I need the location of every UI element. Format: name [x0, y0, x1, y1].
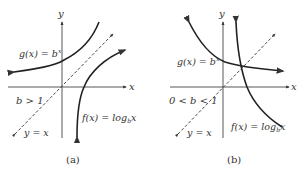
y-axis-label: y — [218, 8, 225, 19]
diagram-root: x y g(x) = bx b > 1 f(x) = logbx y = x (… — [0, 0, 300, 174]
condition-label: b > 1 — [16, 95, 44, 106]
log-curve — [77, 50, 125, 137]
log-label: f(x) = logbx — [230, 121, 286, 133]
condition-label: 0 < b < 1 — [169, 95, 218, 106]
exp-label: g(x) = bx — [177, 55, 220, 67]
y-axis-label: y — [57, 8, 64, 19]
x-axis-label: x — [129, 81, 135, 92]
identity-line — [178, 34, 275, 134]
identity-label: y = x — [186, 127, 212, 138]
identity-label: y = x — [23, 127, 49, 138]
caption-a: (a) — [66, 154, 80, 165]
exp-curve — [14, 22, 99, 72]
panel-b: x y g(x) = bx 0 < b < 1 f(x) = logbx y =… — [169, 8, 297, 165]
log-label: f(x) = logbx — [81, 112, 137, 124]
log-curve — [236, 22, 282, 127]
exp-label: g(x) = bx — [19, 47, 62, 59]
panel-a: x y g(x) = bx b > 1 f(x) = logbx y = x (… — [8, 8, 137, 165]
x-axis-label: x — [291, 81, 297, 92]
caption-b: (b) — [227, 154, 241, 165]
